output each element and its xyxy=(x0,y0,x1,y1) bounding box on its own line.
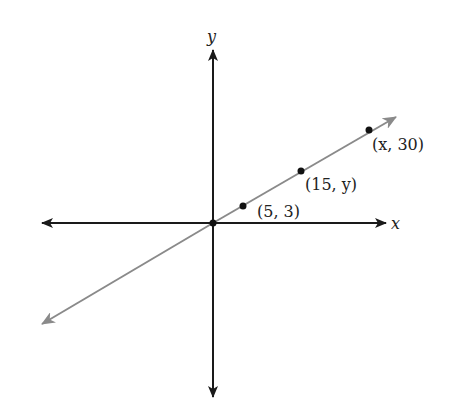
y-axis-label: y xyxy=(206,27,217,46)
x-axis-label: x xyxy=(391,214,400,233)
origin-point xyxy=(210,220,217,227)
coordinate-plane: y x (5, 3) (15, y) (x, 30) xyxy=(0,0,458,420)
point-x-30 xyxy=(366,127,373,134)
point-label-x-30: (x, 30) xyxy=(372,135,424,154)
point-5-3 xyxy=(240,203,247,210)
point-label-5-3: (5, 3) xyxy=(257,202,300,221)
point-label-15-y: (15, y) xyxy=(305,175,357,194)
point-15-y xyxy=(298,168,305,175)
graph-line-negative xyxy=(42,223,213,324)
